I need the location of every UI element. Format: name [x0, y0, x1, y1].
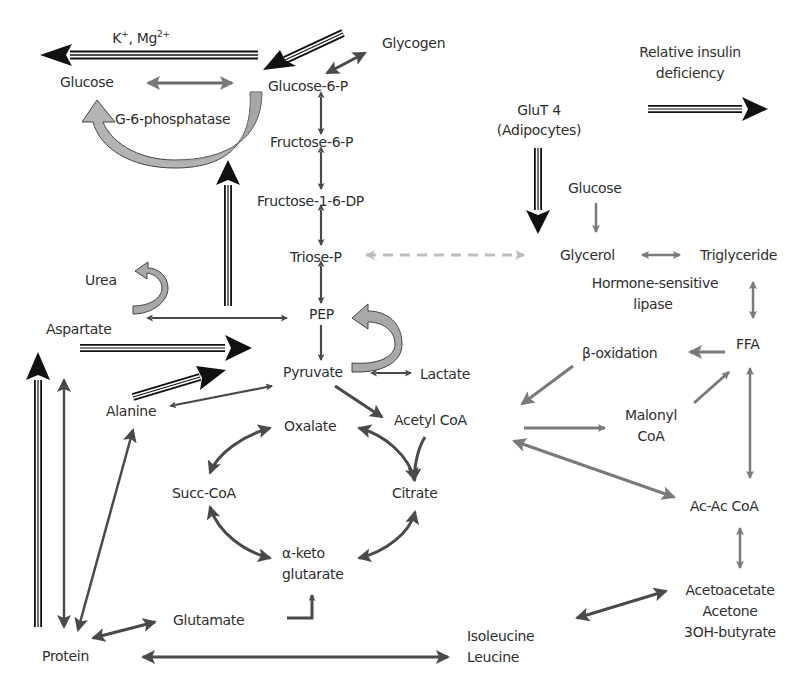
- label-glut4: GluT 4: [517, 102, 561, 119]
- label-g6-phosphatase: G-6-phosphatase: [115, 111, 230, 128]
- node-glucose-liver: Glucose: [60, 74, 114, 91]
- node-acac-coa: Ac-Ac CoA: [690, 498, 758, 515]
- label-lipase: lipase: [633, 296, 672, 313]
- node-pep: PEP: [309, 306, 334, 323]
- label-malonyl-coa: CoA: [637, 428, 664, 445]
- node-triglyceride: Triglyceride: [700, 247, 777, 264]
- node-aspartate: Aspartate: [46, 321, 112, 338]
- label-relative-insulin: Relative insulin: [639, 44, 741, 61]
- triple-arrow-aspartate-to-pyruvate: [80, 335, 252, 361]
- node-3oh-butyrate: 3OH-butyrate: [684, 624, 776, 641]
- node-alpha-keto-glutarate: glutarate: [282, 566, 343, 583]
- triple-arrow-g6p-to-glucose: [40, 44, 258, 66]
- urea-curved-arrow: [133, 262, 168, 314]
- g6-phosphatase-curved-arrow: [82, 92, 262, 168]
- node-alanine: Alanine: [106, 403, 156, 420]
- triple-arrow-insulin-deficiency: [648, 97, 768, 121]
- node-triose-p: Triose-P: [290, 249, 342, 266]
- label-adipocytes: (Adipocytes): [497, 122, 581, 139]
- node-acetoacetate: Acetoacetate: [685, 582, 774, 599]
- node-leucine: Leucine: [467, 649, 519, 666]
- node-protein: Protein: [42, 648, 89, 665]
- label-hormone-sensitive: Hormone-sensitive: [592, 275, 719, 292]
- node-isoleucine: Isoleucine: [467, 628, 534, 645]
- node-urea: Urea: [85, 272, 117, 289]
- triple-arrow-alanine-to-pyruvate: [133, 366, 226, 397]
- label-deficiency: deficiency: [656, 65, 724, 82]
- node-glycogen: Glycogen: [382, 35, 445, 52]
- node-lactate: Lactate: [420, 366, 470, 383]
- label-malonyl: Malonyl: [625, 407, 677, 424]
- node-ffa: FFA: [736, 336, 760, 353]
- dark-arrows: [64, 53, 666, 657]
- triple-arrow-protein-to-aspartate: [26, 352, 50, 627]
- triple-arrow-glycogen-to-g6p: [263, 33, 343, 70]
- node-succ-coa: Succ-CoA: [172, 485, 236, 502]
- node-glucose-adipocyte: Glucose: [568, 180, 622, 197]
- node-glucose-6-p: Glucose-6-P: [268, 78, 348, 95]
- node-acetyl-coa: Acetyl CoA: [394, 412, 467, 429]
- triple-arrow-glut4-down: [526, 148, 550, 234]
- node-pyruvate: Pyruvate: [283, 364, 343, 381]
- node-glutamate: Glutamate: [173, 612, 244, 629]
- curved-block-arrows: [82, 92, 402, 372]
- node-citrate: Citrate: [392, 485, 438, 502]
- node-alpha-keto: α-keto: [282, 545, 325, 562]
- node-oxalate: Oxalate: [284, 418, 336, 435]
- triple-arrow-to-glucose-up: [216, 160, 240, 306]
- label-k-mg: K+, Mg2+: [112, 30, 169, 47]
- node-glycerol: Glycerol: [560, 247, 615, 264]
- node-acetone: Acetone: [702, 603, 757, 620]
- pyruvate-to-pep-curved-arrow: [352, 304, 402, 372]
- node-beta-oxidation: β-oxidation: [582, 345, 657, 362]
- node-fructose-1-6-dp: Fructose-1-6-DP: [257, 193, 364, 210]
- node-fructose-6-p: Fructose-6-P: [270, 134, 353, 151]
